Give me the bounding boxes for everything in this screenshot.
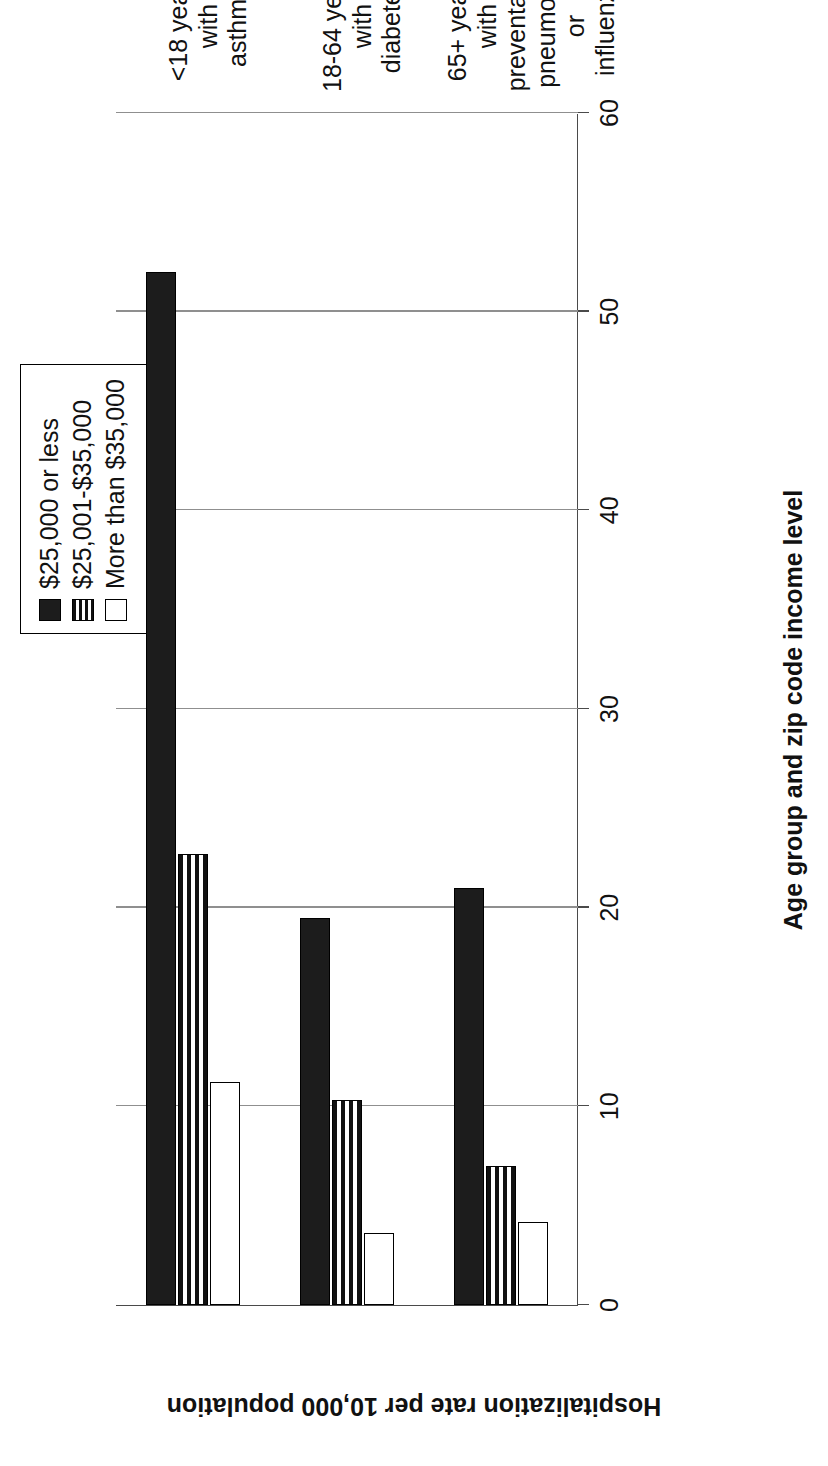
bar[interactable] xyxy=(518,1222,548,1305)
axis-tick-label: 0 xyxy=(595,1298,624,1312)
bar[interactable] xyxy=(454,888,484,1305)
bar-group xyxy=(454,114,548,1305)
bar[interactable] xyxy=(364,1233,394,1305)
bar[interactable] xyxy=(178,854,208,1305)
axis-tick xyxy=(578,1105,589,1106)
axis-tick-label: 30 xyxy=(595,695,624,723)
category-label: 18-64 years with diabetes xyxy=(318,0,407,102)
value-axis-title: Hospitalization rate per 10,000 populati… xyxy=(167,1392,662,1421)
axis-tick-label: 40 xyxy=(595,496,624,524)
bar[interactable] xyxy=(146,272,176,1305)
legend-label: $25,001-$35,000 xyxy=(68,400,97,589)
axis-tick xyxy=(578,112,589,113)
legend-item[interactable]: $25,001-$35,000 xyxy=(68,379,97,621)
legend-swatch-icon xyxy=(39,599,61,621)
axis-tick xyxy=(578,906,589,907)
bar-group xyxy=(300,114,394,1305)
chart-legend: $25,000 or less$25,001-$35,000More than … xyxy=(20,364,147,634)
axis-tick-label: 20 xyxy=(595,894,624,922)
gridline xyxy=(116,112,578,113)
category-label: 65+ years with preventable pneumonia or … xyxy=(443,0,620,102)
axis-tick xyxy=(578,509,589,510)
legend-label: $25,000 or less xyxy=(35,418,64,589)
bar-group xyxy=(146,114,240,1305)
plot-area: 0102030405060 xyxy=(116,114,578,1306)
category-axis-title: Age group and zip code income level xyxy=(779,114,808,1306)
legend-label: More than $35,000 xyxy=(101,379,130,589)
axis-tick-label: 60 xyxy=(595,99,624,127)
value-axis-baseline xyxy=(577,114,578,1305)
axis-tick-label: 50 xyxy=(595,298,624,326)
bar[interactable] xyxy=(210,1083,240,1306)
axis-tick-label: 10 xyxy=(595,1092,624,1120)
bar-chart-figure: Hospitalization rate per 10,000 populati… xyxy=(0,0,828,1466)
category-label: <18 years with asthma xyxy=(164,0,253,102)
axis-tick xyxy=(578,1304,589,1305)
bar[interactable] xyxy=(300,918,330,1305)
legend-swatch-icon xyxy=(105,599,127,621)
bar[interactable] xyxy=(332,1100,362,1305)
axis-tick xyxy=(578,310,589,311)
legend-item[interactable]: $25,000 or less xyxy=(35,379,64,621)
legend-swatch-icon xyxy=(72,599,94,621)
axis-tick xyxy=(578,708,589,709)
bar[interactable] xyxy=(486,1166,516,1305)
rotated-page-stage: Hospitalization rate per 10,000 populati… xyxy=(0,0,828,1466)
legend-item[interactable]: More than $35,000 xyxy=(101,379,130,621)
